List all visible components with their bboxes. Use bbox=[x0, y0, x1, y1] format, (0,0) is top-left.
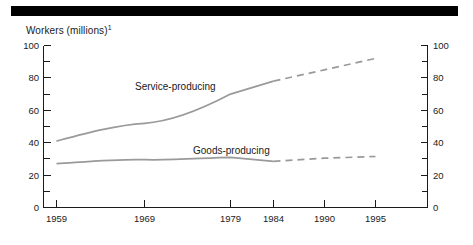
series-line-goods-producing-projected bbox=[274, 157, 376, 162]
y-tick-label-left: 0 bbox=[34, 202, 39, 213]
x-axis-ticks bbox=[57, 200, 376, 208]
series-line-goods-producing-actual bbox=[57, 157, 274, 163]
y-tick-label-right: 40 bbox=[433, 137, 444, 148]
y-tick-label-right: 80 bbox=[433, 72, 444, 83]
y-axis-left-tick-labels: 100 80 60 40 20 0 bbox=[23, 40, 39, 213]
x-tick-label: 1984 bbox=[263, 213, 284, 224]
x-axis-tick-labels: 1959 1969 1979 1984 1990 1995 bbox=[46, 213, 386, 224]
x-tick-label: 1990 bbox=[314, 213, 335, 224]
y-axis-right-minor-ticks bbox=[422, 62, 428, 192]
y-tick-label-left: 100 bbox=[23, 40, 39, 51]
x-tick-label: 1979 bbox=[220, 213, 241, 224]
series-label-service-producing: Service-producing bbox=[135, 81, 216, 92]
y-tick-label-right: 60 bbox=[433, 105, 444, 116]
x-tick-label: 1969 bbox=[134, 213, 155, 224]
y-tick-label-left: 60 bbox=[28, 105, 39, 116]
chart-plot-area: 100 80 60 40 20 0 100 80 60 40 20 0 1959… bbox=[0, 0, 473, 245]
y-tick-label-right: 0 bbox=[433, 202, 438, 213]
series-label-goods-producing: Goods-producing bbox=[193, 145, 270, 156]
x-tick-label: 1959 bbox=[46, 213, 67, 224]
x-tick-label: 1995 bbox=[365, 213, 386, 224]
y-tick-label-right: 100 bbox=[433, 40, 449, 51]
y-tick-label-right: 20 bbox=[433, 170, 444, 181]
y-axis-right-tick-labels: 100 80 60 40 20 0 bbox=[433, 40, 449, 213]
y-tick-label-left: 20 bbox=[28, 170, 39, 181]
y-tick-label-left: 80 bbox=[28, 72, 39, 83]
chart-figure: Workers (millions)1 bbox=[0, 0, 473, 245]
series-line-service-producing-projected bbox=[274, 58, 376, 81]
y-axis-left-minor-ticks bbox=[44, 62, 50, 192]
y-tick-label-left: 40 bbox=[28, 137, 39, 148]
